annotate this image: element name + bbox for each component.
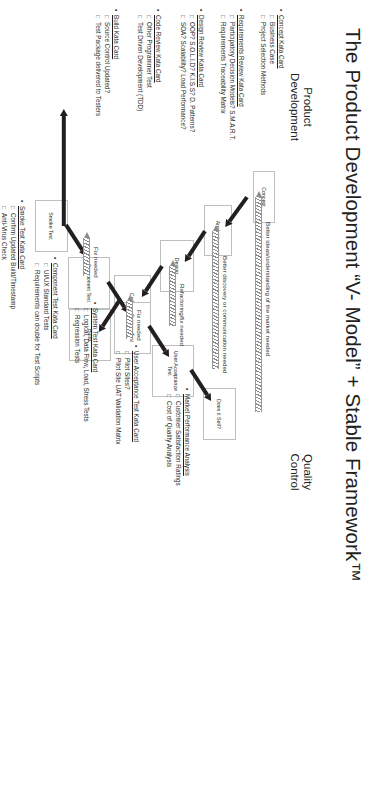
kata-card-item: □Project Selection Methods bbox=[258, 9, 267, 95]
kata-card-uat: •User Acceptance Test Kata Card □Pilot S… bbox=[113, 345, 140, 444]
kata-card-item: □SOA? Scalability? Load Performance? bbox=[178, 9, 187, 132]
feedback-label-fix-1: Fix needed bbox=[136, 310, 143, 341]
kata-card-title: •Requirements Review Kata Card bbox=[236, 9, 245, 140]
feedback-line-communication bbox=[212, 231, 219, 369]
process-box-design[interactable]: Design bbox=[160, 240, 194, 292]
kata-card-item: □Requirements can double for Test Script… bbox=[32, 257, 41, 385]
kata-card-concept: •Concept Kata Card □Business Case □Proje… bbox=[258, 9, 285, 95]
section-caption-quality-control: Quality Control bbox=[288, 437, 314, 507]
kata-card-title: •System Test Kata Card bbox=[90, 302, 99, 422]
kata-card-item: □Participatory Decision Models? S.M.A.R.… bbox=[227, 9, 236, 140]
feedback-line-fix-2 bbox=[83, 238, 90, 276]
kata-card-title: •Design Review Kata Card bbox=[196, 9, 205, 132]
kata-card-title: •Build Kata Card bbox=[111, 9, 120, 116]
kata-card-item: □Pilot Sites? bbox=[122, 345, 131, 444]
kata-card-item: □Anti-Virus Check bbox=[0, 200, 8, 309]
kata-card-requirements: •Requirements Review Kata Card □Particip… bbox=[218, 9, 245, 140]
page-title: The Product Development “V- Model” + Sta… bbox=[341, 28, 364, 582]
kata-card-component-test: •Component Test Kata Card □UI/UX Standar… bbox=[32, 257, 59, 385]
arrow-build-to-smoke-test bbox=[62, 116, 66, 226]
section-caption-product-development: Product Development bbox=[288, 72, 314, 142]
feedback-label-communication: Better discovery or communication needed bbox=[222, 256, 229, 373]
kata-card-item: □Logical, Data Flow, Load, Stress Tests bbox=[81, 302, 90, 422]
feedback-line-fix-1 bbox=[126, 301, 133, 339]
poster-canvas: The Product Development “V- Model” + Sta… bbox=[0, 0, 386, 788]
kata-card-market-performance: •Market Performance Analysis □Customer S… bbox=[164, 388, 191, 486]
kata-card-item: □Test Package delivered to Testers bbox=[93, 9, 102, 116]
kata-card-code-review: •Code Review Kata Card □Other Programmer… bbox=[135, 9, 162, 111]
kata-card-smoke-test: •Smoke Test Kata Card □Confirm Updated B… bbox=[0, 200, 26, 309]
kata-card-item: □Requirements Traceability Matrix bbox=[218, 9, 227, 140]
kata-card-title: •Market Performance Analysis bbox=[182, 388, 191, 486]
kata-card-title: •Smoke Test Kata Card bbox=[17, 200, 26, 309]
kata-card-item: □UI/UX Standard Tests bbox=[41, 257, 50, 385]
kata-card-title: •User Acceptance Test Kata Card bbox=[131, 345, 140, 444]
kata-card-system-test: •System Test Kata Card □Logical, Data Fl… bbox=[72, 302, 99, 422]
kata-card-design: •Design Review Kata Card □OOP? S.O.L.I.D… bbox=[178, 9, 205, 132]
kata-card-item: □Test Driven Development (TDD) bbox=[135, 9, 144, 111]
kata-card-item: □Pilot Site UAT Validation Matrix bbox=[113, 345, 122, 444]
kata-card-item: □Business Case bbox=[267, 9, 276, 95]
feedback-line-refactor bbox=[169, 266, 176, 326]
kata-card-title: •Concept Kata Card bbox=[276, 9, 285, 95]
kata-card-build: •Build Kata Card □Source Control Updated… bbox=[93, 9, 120, 116]
kata-card-title: •Code Review Kata Card bbox=[153, 9, 162, 111]
feedback-label-market: Better ideas/understanding of the market… bbox=[265, 222, 272, 356]
kata-card-title: •Component Test Kata Card bbox=[50, 257, 59, 385]
feedback-label-fix-2: Fix needed bbox=[93, 247, 100, 278]
kata-card-item: □Confirm Updated Build/Timestamp bbox=[8, 200, 17, 309]
kata-card-item: □Cost of Quality Analysis bbox=[164, 388, 173, 486]
feedback-line-market bbox=[255, 197, 262, 412]
kata-card-item: □Source Control Updated? bbox=[102, 9, 111, 116]
kata-card-item: □OOP? S.O.L.I.D? K.I.S.S? D. Patterns? bbox=[187, 9, 196, 132]
kata-card-item: □Other Programmer Test bbox=[144, 9, 153, 111]
feedback-label-refactor: Refactoring/fix needed bbox=[179, 284, 186, 346]
kata-card-item: □Customer Satisfaction Ratings bbox=[173, 388, 182, 486]
kata-card-item: □Regression Tests bbox=[72, 302, 81, 422]
